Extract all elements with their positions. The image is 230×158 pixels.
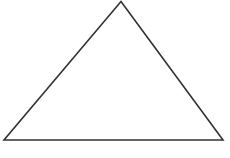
figure-canvas xyxy=(0,0,230,158)
drawing-background xyxy=(0,0,230,158)
triangle-drawing xyxy=(0,0,230,158)
